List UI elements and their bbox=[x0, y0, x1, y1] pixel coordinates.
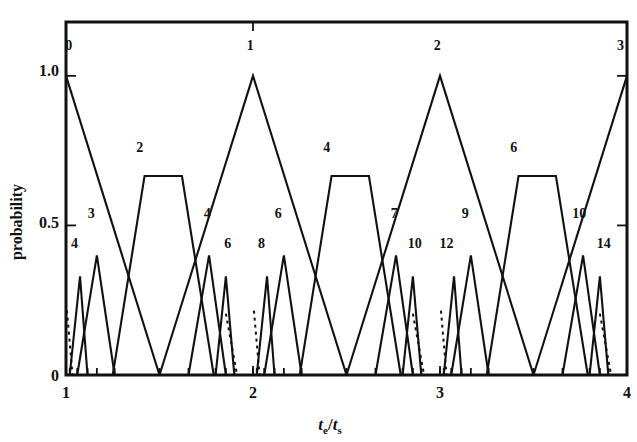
curve-label-4s: 4 bbox=[71, 236, 78, 251]
x-tick-label-2: 2 bbox=[249, 384, 257, 401]
curve-labels-layer: 02142634346867101291014 bbox=[65, 38, 624, 250]
y-axis-title: probability bbox=[8, 184, 26, 260]
curve-label-2: 2 bbox=[136, 140, 143, 155]
curve-2 bbox=[113, 176, 214, 375]
curve-label-6s: 6 bbox=[275, 206, 282, 221]
curve-label-6r: 6 bbox=[224, 236, 231, 251]
curve-label-4: 4 bbox=[323, 140, 330, 155]
plot-frame bbox=[66, 22, 627, 375]
plot-border bbox=[66, 22, 627, 375]
curve-label-3s: 3 bbox=[88, 206, 95, 221]
y-tick-label-0: 0 bbox=[51, 367, 59, 384]
curve-label-6: 6 bbox=[510, 140, 517, 155]
x-tick-label-1: 1 bbox=[62, 384, 70, 401]
curve-label-9s: 9 bbox=[462, 206, 469, 221]
x-axis-title-group: te/ts bbox=[318, 415, 342, 436]
curve-label-2b: 2 bbox=[434, 38, 441, 53]
curve-7r bbox=[375, 255, 412, 375]
curves-layer bbox=[66, 76, 627, 375]
x-axis-title-sub-s: s bbox=[337, 424, 342, 436]
curve-2b bbox=[347, 76, 534, 375]
probability-vs-time-ratio-chart: probability 1.0 0.5 0 1 2 3 4 te/ts bbox=[0, 0, 637, 442]
curve-1 bbox=[160, 76, 347, 375]
x-tick-labels: 1 2 3 4 bbox=[62, 384, 631, 401]
curve-0 bbox=[66, 76, 160, 375]
y-tick-label-1: 1.0 bbox=[39, 62, 59, 79]
x-axis-title: te/ts bbox=[318, 415, 342, 436]
curve-label-3: 3 bbox=[617, 38, 624, 53]
y-axis-title-text: probability bbox=[8, 184, 26, 260]
y-tick-label-05: 0.5 bbox=[39, 214, 59, 231]
chart-figure: probability 1.0 0.5 0 1 2 3 4 te/ts bbox=[0, 0, 637, 442]
curve-label-4r: 4 bbox=[204, 206, 211, 221]
curve-label-10r: 10 bbox=[408, 236, 422, 251]
axis-ticks bbox=[66, 22, 627, 375]
curve-label-0: 0 bbox=[65, 38, 72, 53]
curve-label-1: 1 bbox=[247, 38, 254, 53]
curve-10g bbox=[562, 255, 599, 375]
curve-label-7r: 7 bbox=[391, 206, 398, 221]
curve-4 bbox=[300, 176, 401, 375]
curve-label-14g: 14 bbox=[597, 236, 611, 251]
x-tick-label-4: 4 bbox=[623, 384, 631, 401]
curve-4r bbox=[188, 255, 225, 375]
curve-label-12s: 12 bbox=[440, 236, 454, 251]
x-tick-label-3: 3 bbox=[436, 384, 444, 401]
curve-label-10g: 10 bbox=[572, 206, 586, 221]
curve-label-8s: 8 bbox=[258, 236, 265, 251]
y-tick-labels: 1.0 0.5 0 bbox=[39, 62, 59, 384]
